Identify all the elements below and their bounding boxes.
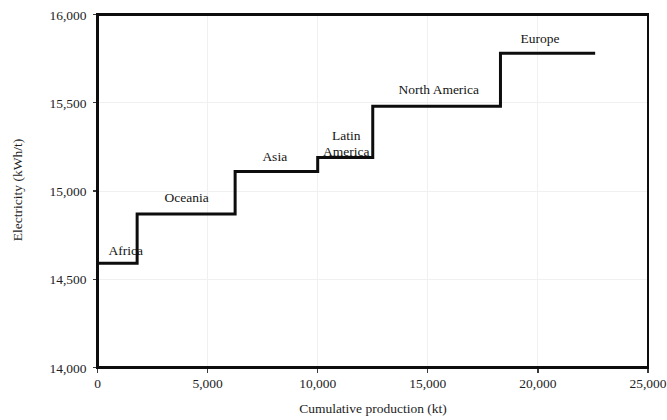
- x-tick-label: 5,000: [192, 376, 223, 391]
- x-axis-title: Cumulative production (kt): [299, 401, 447, 416]
- series-annotations: AfricaOceaniaAsiaLatinAmericaNorth Ameri…: [109, 31, 560, 258]
- x-tick-label: 0: [94, 376, 101, 391]
- step-chart-svg: 14,00014,50015,00015,50016,000 05,00010,…: [0, 0, 667, 420]
- y-axis-ticks: 14,00014,50015,00015,50016,000: [49, 8, 97, 376]
- y-axis-title: Electricity (kWh/t): [10, 139, 25, 241]
- x-tick-label: 10,000: [299, 376, 336, 391]
- y-tick-label: 14,500: [49, 272, 86, 287]
- series-label: Asia: [262, 149, 287, 164]
- x-tick-label: 15,000: [409, 376, 446, 391]
- chart-figure: 14,00014,50015,00015,50016,000 05,00010,…: [0, 0, 667, 420]
- y-tick-label: 16,000: [49, 8, 86, 23]
- y-tick-label: 14,000: [49, 361, 86, 376]
- y-tick-label: 15,000: [49, 184, 86, 199]
- x-axis-ticks: 05,00010,00015,00020,00025,000: [94, 368, 667, 391]
- x-tick-label: 20,000: [519, 376, 556, 391]
- y-tick-label: 15,500: [49, 96, 86, 111]
- series-label-line: Latin: [332, 128, 361, 143]
- series-label-line: America: [323, 144, 369, 159]
- series-label: LatinAmerica: [323, 128, 369, 159]
- series-label: North America: [399, 82, 480, 97]
- x-tick-label: 25,000: [629, 376, 666, 391]
- series-label: Africa: [109, 243, 143, 258]
- series-label: Oceania: [165, 190, 209, 205]
- series-label: Europe: [521, 31, 560, 46]
